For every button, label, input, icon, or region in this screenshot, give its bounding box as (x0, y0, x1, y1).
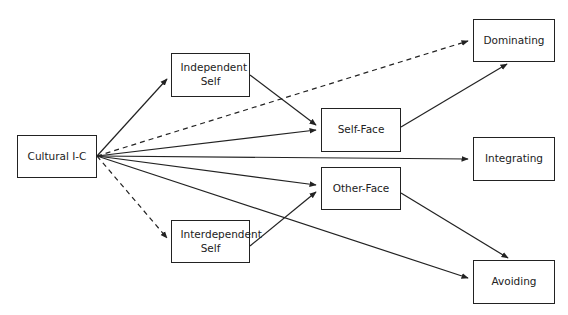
edge-cultural-avoiding (97, 156, 468, 278)
edge-cultural-interdependent (97, 156, 167, 238)
node-avoiding: Avoiding (473, 260, 555, 304)
node-label: Interdependent Self (181, 228, 241, 255)
edge-otherface-avoiding (401, 193, 508, 258)
node-label: Self-Face (338, 123, 385, 137)
node-label: Independent Self (181, 61, 241, 88)
edge-independent-selfface (250, 75, 316, 125)
node-independent-self: Independent Self (171, 53, 250, 97)
node-cultural-ic: Cultural I-C (17, 135, 97, 178)
node-label: Dominating (483, 34, 544, 48)
edge-selfface-dominating (401, 64, 507, 127)
node-integrating: Integrating (473, 137, 555, 181)
node-dominating: Dominating (473, 19, 555, 62)
node-self-face: Self-Face (321, 108, 401, 152)
node-interdependent-self: Interdependent Self (171, 220, 250, 263)
node-label: Cultural I-C (28, 150, 87, 164)
node-label: Avoiding (491, 275, 536, 289)
node-label: Other-Face (333, 182, 390, 196)
edge-cultural-dominating (97, 41, 468, 156)
edge-cultural-independent (97, 79, 167, 156)
edge-cultural-integrating (97, 156, 468, 159)
edge-cultural-otherface (97, 156, 316, 185)
edge-cultural-selfface (97, 130, 316, 156)
node-other-face: Other-Face (321, 167, 401, 210)
node-label: Integrating (485, 152, 543, 166)
